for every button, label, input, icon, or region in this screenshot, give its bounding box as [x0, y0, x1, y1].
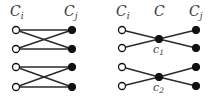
filled-node: [68, 63, 75, 70]
open-node: [119, 83, 126, 90]
open-node: [13, 64, 20, 71]
filled-node: [68, 83, 75, 90]
open-node: [119, 27, 126, 34]
center-node-c1: [155, 35, 162, 42]
filled-node: [192, 44, 199, 51]
open-node: [13, 84, 20, 91]
edge: [122, 30, 159, 39]
filled-node: [192, 82, 199, 89]
edge: [159, 77, 196, 86]
right-header-c: C: [154, 3, 165, 19]
left-header-cj: Cj: [64, 3, 78, 21]
center-node-c2: [155, 73, 162, 80]
left-graph-edges: [16, 30, 72, 87]
filled-node: [68, 26, 75, 33]
open-node: [119, 45, 126, 52]
label-c1: c1: [153, 43, 164, 57]
open-node: [13, 27, 20, 34]
edge: [159, 67, 196, 77]
right-header-ci: Ci: [116, 3, 130, 21]
open-node: [119, 64, 126, 71]
right-header-cj: Cj: [189, 3, 203, 21]
left-graph-nodes: [13, 26, 76, 90]
open-node: [13, 46, 20, 53]
diagram-canvas: Ci Cj Ci C Cj: [0, 0, 213, 96]
edge: [159, 30, 196, 39]
edge: [122, 67, 159, 77]
filled-node: [68, 45, 75, 52]
filled-node: [192, 26, 199, 33]
left-header-ci: Ci: [10, 3, 24, 21]
edge: [159, 39, 196, 48]
label-c2: c2: [153, 81, 164, 95]
filled-node: [192, 63, 199, 70]
